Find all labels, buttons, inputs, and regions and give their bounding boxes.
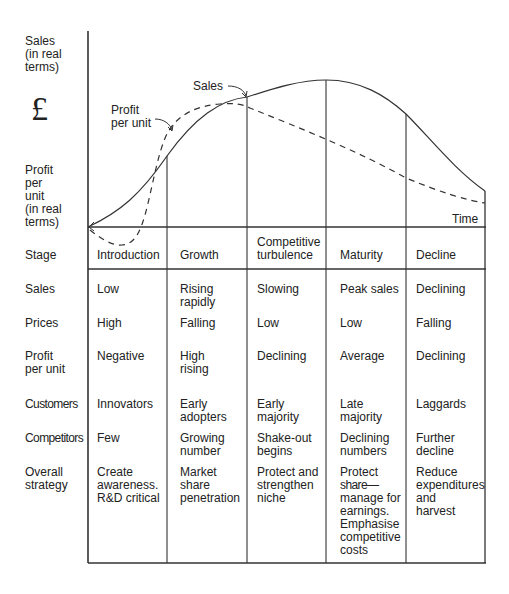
stage-competitive-turbulence: Competitive turbulence <box>257 236 320 262</box>
row-label-prices: Prices <box>25 317 58 330</box>
x-axis-label-time: Time <box>452 213 478 226</box>
cell-line: adopters <box>180 411 227 424</box>
intro-strategy: Create awareness. R&D critical <box>97 466 160 505</box>
cell-line: number <box>180 445 225 458</box>
sales-curve-label: Sales <box>193 80 223 93</box>
intro-prices: High <box>97 317 122 330</box>
cell-line: rapidly <box>180 296 215 309</box>
growth-strategy: Market share penetration <box>180 466 240 505</box>
turbulence-profit: Declining <box>257 350 306 363</box>
decline-competitors: Further decline <box>416 432 455 458</box>
intro-profit: Negative <box>97 350 144 363</box>
decline-strategy: Reduce expenditures and harvest <box>416 466 485 518</box>
decline-sales: Declining <box>416 283 465 296</box>
turbulence-sales: Slowing <box>257 283 299 296</box>
cell-line: majority <box>340 411 382 424</box>
cell-line: costs <box>340 544 401 557</box>
growth-prices: Falling <box>180 317 215 330</box>
cell-line: turbulence <box>257 249 320 262</box>
cell-line: harvest <box>416 505 485 518</box>
stage-maturity: Maturity <box>340 249 383 262</box>
label-text: Profit per unit <box>25 349 65 376</box>
decline-profit: Declining <box>416 350 465 363</box>
row-label-stage: Stage <box>25 249 56 262</box>
decline-customers: Laggards <box>416 398 466 411</box>
growth-profit: High rising <box>180 350 209 376</box>
sales-arrowhead <box>242 91 247 97</box>
maturity-competitors: Declining numbers <box>340 432 389 458</box>
row-label-customers: Customers <box>25 398 78 411</box>
maturity-prices: Low <box>340 317 362 330</box>
growth-customers: Early adopters <box>180 398 227 424</box>
intro-customers: Innovators <box>97 398 153 411</box>
stage-decline: Decline <box>416 249 456 262</box>
maturity-customers: Late majority <box>340 398 382 424</box>
turbulence-competitors: Shake-out begins <box>257 432 312 458</box>
intro-competitors: Few <box>97 432 120 445</box>
label-text: Overall strategy <box>25 465 68 492</box>
row-label-strategy: Overall strategy <box>25 466 75 492</box>
stage-introduction: Introduction <box>97 249 160 262</box>
decline-prices: Falling <box>416 317 451 330</box>
cell-line: penetration <box>180 492 240 505</box>
row-label-sales: Sales <box>25 283 55 296</box>
turbulence-customers: Early majority <box>257 398 299 424</box>
cell-line: R&D critical <box>97 492 160 505</box>
maturity-profit: Average <box>340 350 384 363</box>
sales-curve <box>88 80 485 227</box>
cell-line: rising <box>180 363 209 376</box>
label-line: per unit <box>111 117 151 130</box>
maturity-sales: Peak sales <box>340 283 399 296</box>
maturity-strategy: Protect share— manage for earnings. Emph… <box>340 466 401 557</box>
cell-line: decline <box>416 445 455 458</box>
growth-competitors: Growing number <box>180 432 225 458</box>
intro-sales: Low <box>97 283 119 296</box>
stage-growth: Growth <box>180 249 219 262</box>
cell-line: numbers <box>340 445 389 458</box>
profit-curve-label: Profit per unit <box>111 104 151 130</box>
turbulence-prices: Low <box>257 317 279 330</box>
turbulence-strategy: Protect and strengthen niche <box>257 466 318 505</box>
cell-line: begins <box>257 445 312 458</box>
growth-sales: Rising rapidly <box>180 283 215 309</box>
cell-line: majority <box>257 411 299 424</box>
row-label-profit: Profit per unit <box>25 350 70 376</box>
cell-line: niche <box>257 492 318 505</box>
row-label-competitors: Competitors <box>25 432 83 445</box>
